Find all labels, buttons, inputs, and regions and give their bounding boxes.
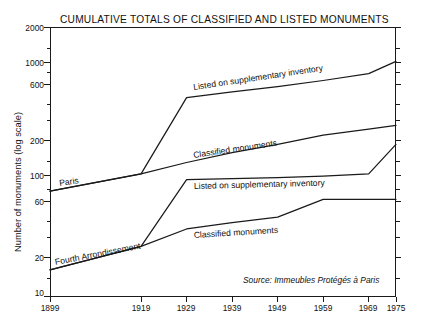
- source-note: Source: Immeubles Protégés à Paris: [243, 275, 379, 285]
- series-layer: [0, 0, 435, 320]
- chart-figure: CUMULATIVE TOTALS OF CLASSIFIED AND LIST…: [0, 0, 435, 320]
